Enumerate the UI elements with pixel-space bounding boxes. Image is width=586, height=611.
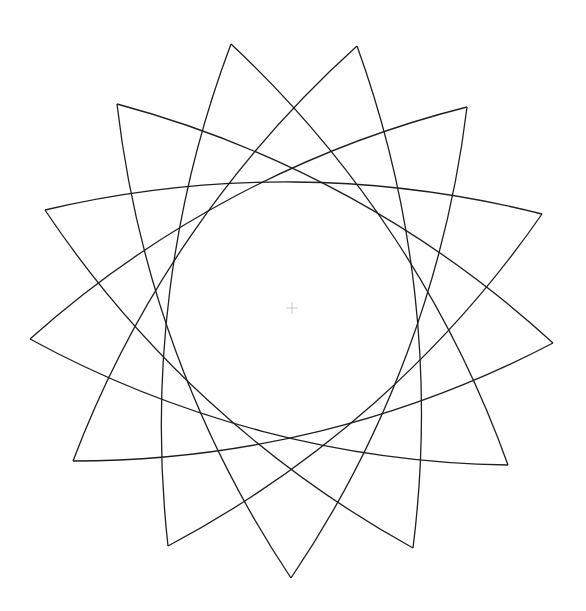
arc-group (30, 44, 553, 578)
rosette-canvas (0, 0, 586, 611)
rosette-arc (45, 182, 542, 214)
rosette-arc (45, 210, 413, 548)
rosette-arc (161, 44, 231, 546)
rosette-arc (291, 107, 467, 578)
rosette-arc (117, 104, 291, 578)
rosette-arc (357, 46, 421, 548)
rosette-arc (30, 339, 508, 465)
center-crosshair-icon (286, 302, 298, 314)
rosette-arc (73, 46, 357, 461)
rosette-arc (30, 107, 467, 339)
rosette-diagram (0, 0, 586, 611)
rosette-arc (117, 104, 553, 343)
rosette-arc (168, 214, 542, 546)
